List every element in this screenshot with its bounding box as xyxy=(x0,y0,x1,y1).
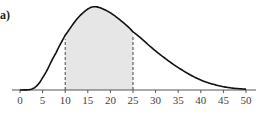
x-tick-label: 15 xyxy=(82,94,94,106)
x-tick-label: 40 xyxy=(195,94,207,106)
x-tick-label: 50 xyxy=(241,94,253,106)
x-tick-label: 10 xyxy=(60,94,72,106)
x-tick-label: 45 xyxy=(218,94,230,106)
shaded-region xyxy=(65,7,133,90)
x-tick-label: 5 xyxy=(40,94,46,106)
x-tick-label: 25 xyxy=(128,94,140,106)
x-tick-label: 35 xyxy=(173,94,185,106)
density-chart: 05101520253035404550 xyxy=(0,0,266,113)
x-tick-label: 0 xyxy=(17,94,23,106)
x-tick-label: 30 xyxy=(150,94,162,106)
x-tick-label: 20 xyxy=(105,94,117,106)
